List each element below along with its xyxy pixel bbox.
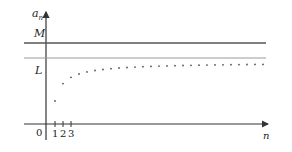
sequence-points <box>54 64 264 102</box>
sequence-point <box>150 66 152 68</box>
sequence-point <box>110 68 112 70</box>
tick-label-2: 2 <box>60 128 66 139</box>
y-axis-label: an <box>32 7 44 22</box>
sequence-point <box>158 65 160 67</box>
tick-label-1: 1 <box>52 128 58 139</box>
sequence-point <box>78 73 80 75</box>
x-axis-label: n <box>263 130 269 141</box>
sequence-point <box>198 64 200 66</box>
sequence-point <box>246 64 248 66</box>
sequence-point <box>126 67 128 69</box>
sequence-point <box>230 64 232 66</box>
sequence-point <box>238 64 240 66</box>
sequence-point <box>262 64 264 66</box>
sequence-point <box>206 64 208 66</box>
sequence-point <box>134 66 136 68</box>
sequence-point <box>214 64 216 66</box>
label-M: M <box>33 27 46 40</box>
sequence-point <box>70 76 72 78</box>
label-L: L <box>34 64 42 77</box>
sequence-point <box>182 65 184 67</box>
sequence-point <box>222 64 224 66</box>
sequence-point <box>62 83 64 85</box>
sequence-point <box>94 70 96 72</box>
sequence-point <box>54 100 56 102</box>
sequence-point <box>86 71 88 73</box>
sequence-point <box>174 65 176 67</box>
sequence-point <box>254 64 256 66</box>
sequence-chart: an M L 0 1 2 3 n <box>0 0 292 152</box>
sequence-point <box>118 67 120 69</box>
sequence-point <box>142 66 144 68</box>
sequence-point <box>166 65 168 67</box>
sequence-point <box>190 64 192 66</box>
tick-label-3: 3 <box>68 128 74 139</box>
origin-label: 0 <box>36 127 42 138</box>
sequence-point <box>102 69 104 71</box>
